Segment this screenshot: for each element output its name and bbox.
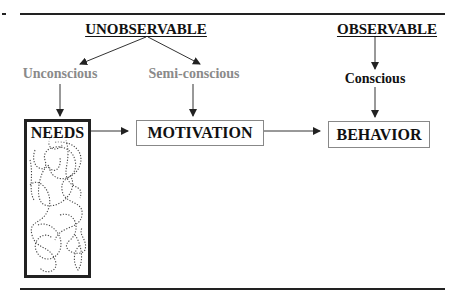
arrow-unobservable-to-semiconscious [148, 37, 200, 64]
needs-box: NEEDS [24, 119, 91, 278]
behavior-box: BEHAVIOR [328, 121, 430, 148]
behavior-label: BEHAVIOR [336, 126, 421, 144]
needs-label: NEEDS [31, 124, 84, 142]
arrow-unobservable-to-unconscious [80, 37, 146, 64]
motivation-label: MOTIVATION [147, 124, 252, 142]
motivation-box: MOTIVATION [136, 120, 264, 146]
